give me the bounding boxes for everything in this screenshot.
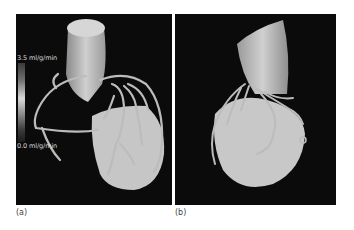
panel-b bbox=[175, 14, 336, 205]
heart-rendering-b bbox=[175, 14, 336, 205]
colorbar bbox=[18, 63, 25, 142]
panel-a: 3.5 ml/g/min 0.0 ml/g/min bbox=[16, 14, 172, 205]
colorbar-max-label: 3.5 ml/g/min bbox=[17, 54, 57, 62]
caption-b: (b) bbox=[175, 208, 186, 217]
caption-a: (a) bbox=[16, 208, 27, 217]
heart-rendering-a bbox=[16, 14, 172, 205]
colorbar-min-label: 0.0 ml/g/min bbox=[17, 142, 57, 150]
